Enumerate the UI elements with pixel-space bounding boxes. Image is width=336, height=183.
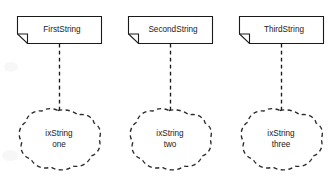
note-label-2: SecondString: [148, 25, 198, 34]
diagram-column-2: SecondString ixString two: [129, 17, 213, 170]
note-label-3: ThirdString: [264, 25, 304, 34]
cloud-label-2-line1: ixString: [156, 129, 184, 138]
note-label-1: FirstString: [43, 25, 81, 34]
diagram-column-1: FirstString ixString one: [18, 17, 102, 170]
diagram-column-3: ThirdString ixString three: [240, 17, 324, 170]
cloud-label-2-line2: two: [164, 140, 177, 149]
cloud-label-1-line1: ixString: [45, 129, 73, 138]
cloud-label-1-line2: one: [52, 140, 66, 149]
diagram-svg: FirstString ixString one SecondString ix…: [0, 0, 336, 183]
cloud-label-3-line1: ixString: [267, 129, 295, 138]
diagram-canvas: FirstString ixString one SecondString ix…: [0, 0, 336, 183]
cloud-label-3-line2: three: [272, 140, 291, 149]
